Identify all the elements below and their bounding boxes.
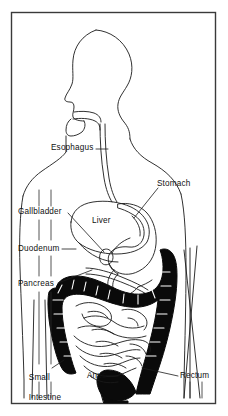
label-gallbladder: Gallbladder xyxy=(18,207,62,217)
label-small-intestine-line1: Small xyxy=(29,373,50,382)
label-liver: Liver xyxy=(92,216,111,226)
label-esophagus: Esophagus xyxy=(51,143,93,153)
label-anus: Anus xyxy=(87,371,106,381)
label-rectum: Rectum xyxy=(180,371,209,381)
label-duodenum: Duodenum xyxy=(18,244,59,254)
digestive-system-figure: Esophagus Stomach Gallbladder Liver Duod… xyxy=(0,0,228,416)
label-small-intestine: Small Intestine xyxy=(19,363,61,413)
label-pancreas: Pancreas xyxy=(18,279,54,289)
label-small-intestine-line2: Intestine xyxy=(29,393,61,402)
label-stomach: Stomach xyxy=(157,179,190,189)
